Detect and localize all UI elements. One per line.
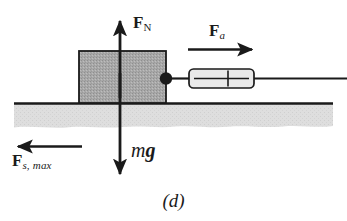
label-applied-force: Fa <box>209 22 225 41</box>
label-static-friction-symbol: F <box>12 151 22 170</box>
spring-scale <box>189 69 254 88</box>
label-normal-force-subscript: N <box>143 21 151 33</box>
diagram-canvas <box>0 0 347 221</box>
label-weight-gravity: g <box>145 139 155 161</box>
label-static-friction: Fs, max <box>12 152 52 171</box>
label-normal-force-symbol: F <box>133 13 143 32</box>
attachment-dot <box>160 72 172 84</box>
label-normal-force: FN <box>133 14 152 33</box>
label-applied-force-symbol: F <box>209 21 219 40</box>
block <box>79 51 166 103</box>
label-static-friction-subscript: s, max <box>22 159 51 171</box>
figure-caption: (d) <box>0 190 347 212</box>
ground-fill <box>14 103 333 128</box>
block-body <box>79 51 166 103</box>
label-weight: mg <box>131 140 155 160</box>
label-applied-force-subscript: a <box>219 29 225 41</box>
ground-surface <box>14 103 333 128</box>
label-weight-mass: m <box>131 139 145 161</box>
physics-figure: FN Fa Fs, max mg (d) <box>0 0 347 221</box>
